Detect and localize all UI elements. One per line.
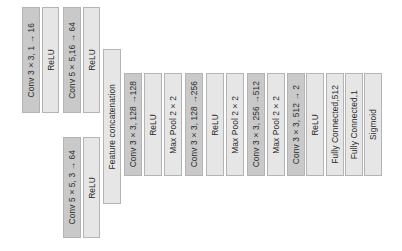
bottom-conv-5x5-3-64-block: Conv 5×5, 3 → 64 (63, 137, 81, 238)
fully-connected-512-block: Fully Connected,512 (326, 73, 344, 176)
block-label: Conv 3×3, 512 → 2 (291, 85, 301, 164)
block-label: Conv 3×3, 256 →512 (251, 81, 261, 167)
block-label: ReLU (87, 49, 97, 71)
sigmoid-block: Sigmoid (364, 73, 382, 176)
block-label: Conv 5×5,16 → 64 (67, 22, 77, 99)
block-label: Conv 3×3, 128 →128 (128, 81, 138, 167)
main-maxpool-3-block: Max Pool 2×2 (267, 73, 285, 176)
block-label: Conv 5×5, 3 → 64 (67, 150, 77, 224)
block-label: Feature concatenation (107, 84, 117, 169)
main-conv-512-2-block: Conv 3×3, 512 → 2 (287, 73, 305, 176)
feature-concatenation-block: Feature concatenation (103, 49, 121, 204)
main-conv-256-512-block: Conv 3×3, 256 →512 (247, 73, 265, 176)
block-label: Max Pool 2×2 (230, 96, 240, 154)
block-label: ReLU (46, 49, 56, 71)
top-relu-1-block: ReLU (42, 7, 59, 113)
fully-connected-1-block: Fully Connected,1 (345, 73, 363, 176)
block-label: ReLU (310, 114, 320, 136)
block-label: Conv 3×3, 1 → 16 (26, 23, 36, 97)
main-relu-1-block: ReLU (144, 73, 162, 176)
block-label: Max Pool 2×2 (168, 96, 178, 154)
block-label: Max Pool 2×2 (271, 96, 281, 154)
main-conv-128-256-block: Conv 3×3, 128 →256 (185, 73, 203, 176)
top-conv-3x3-1-16-block: Conv 3×3, 1 → 16 (22, 7, 40, 113)
block-label: ReLU (148, 114, 158, 136)
block-label: ReLU (210, 114, 220, 136)
top-relu-2-block: ReLU (83, 7, 100, 113)
main-conv-128-128-block: Conv 3×3, 128 →128 (124, 73, 142, 176)
main-maxpool-1-block: Max Pool 2×2 (164, 73, 182, 176)
main-maxpool-2-block: Max Pool 2×2 (226, 73, 244, 176)
main-relu-3-block: ReLU (306, 73, 324, 176)
main-relu-2-block: ReLU (206, 73, 224, 176)
block-label: Fully Connected,512 (330, 85, 340, 164)
bottom-relu-block: ReLU (83, 137, 100, 238)
block-label: Sigmoid (368, 109, 378, 140)
top-conv-5x5-16-64-block: Conv 5×5,16 → 64 (63, 7, 81, 113)
block-label: Fully Connected,1 (349, 90, 359, 159)
block-label: Conv 3×3, 128 →256 (189, 81, 199, 167)
block-label: ReLU (87, 177, 97, 199)
